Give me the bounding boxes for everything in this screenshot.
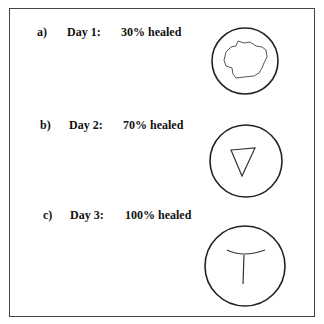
irregular-wound-icon — [212, 28, 278, 94]
t-shaped-scar-icon — [205, 226, 285, 306]
triangle-wound-icon — [210, 125, 282, 197]
wound-diagrams — [0, 0, 324, 324]
